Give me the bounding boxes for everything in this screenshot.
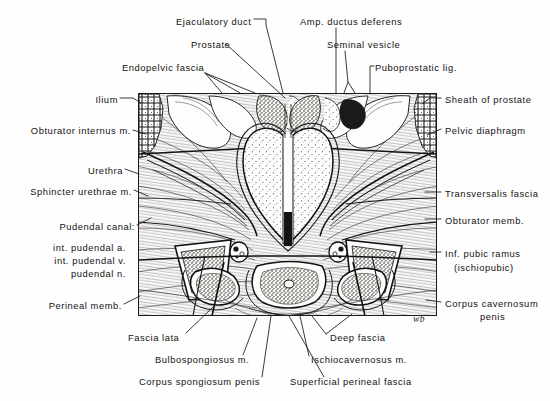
label-pudendal-n: pudendal n.	[0, 268, 126, 280]
label-ilium: Ilium	[0, 94, 118, 106]
leader-ejaculatory-duct	[254, 19, 283, 93]
label-corpus-cavernosum-penis: penis	[480, 311, 505, 323]
leader-corpus-spongiosum-penis	[262, 316, 271, 377]
leader-endopelvic-fascia-c	[205, 73, 255, 93]
label-pudendal-canal: Pudendal canal:	[0, 221, 135, 233]
label-ischiopubic: (ischiopubic)	[454, 262, 514, 274]
leader-puboprostatic-lig	[370, 66, 374, 93]
leader-superficial-perineal-fascia	[289, 316, 324, 377]
label-int-pudendal-v: int. pudendal v.	[0, 255, 126, 267]
label-seminal-vesicle: Seminal vesicle	[327, 39, 400, 51]
label-sphincter-urethrae-m: Sphincter urethrae m.	[0, 186, 132, 198]
label-ischiocavernosus-m: Ischiocavernosus m.	[311, 354, 407, 366]
label-obturator-memb: Obturator memb.	[445, 215, 524, 227]
label-deep-fascia: Deep fascia	[330, 332, 386, 344]
leader-seminal-vesicle-b	[348, 82, 355, 93]
label-endopelvic-fascia: Endopelvic fascia	[122, 62, 204, 74]
leader-urethra	[125, 169, 139, 174]
label-transversalis-fascia: Transversalis fascia	[445, 188, 539, 200]
label-perineal-memb: Perineal memb.	[0, 300, 122, 312]
artist-signature: wb	[413, 314, 425, 324]
leader-deep-fascia-b	[326, 314, 352, 334]
label-amp-ductus-deferens: Amp. ductus deferens	[300, 16, 402, 28]
label-corpus-cavernosum: Corpus cavernosum	[445, 298, 538, 310]
anatomical-illustration-plate	[138, 93, 437, 316]
label-obturator-internus-m: Obturator internus m.	[0, 125, 131, 137]
figure-page: Ejaculatory duct Amp. ductus deferens Pr…	[0, 0, 550, 401]
pelvis-coronal-section-drawing	[139, 94, 437, 316]
label-sheath-of-prostate: Sheath of prostate	[445, 94, 532, 106]
pudendal-canal-left	[230, 242, 248, 262]
leader-prostate	[226, 44, 285, 98]
label-corpus-spongiosum-penis: Corpus spongiosum penis	[139, 376, 260, 388]
label-prostate: Prostate	[191, 39, 230, 51]
leader-deep-fascia-a	[312, 316, 326, 334]
leader-endopelvic-fascia-a	[205, 73, 222, 93]
label-puboprostatic-lig: Puboprostatic lig.	[375, 62, 457, 74]
label-pelvic-diaphragm: Pelvic diaphragm	[445, 125, 526, 137]
corpus-spongiosum-bulb	[252, 262, 326, 309]
leader-bulbospongiosus-m	[243, 318, 257, 355]
label-urethra: Urethra	[0, 165, 123, 177]
label-superficial-perineal-fascia: Superficial perineal fascia	[290, 376, 412, 388]
label-ejaculatory-duct: Ejaculatory duct	[176, 16, 252, 28]
label-bulbospongiosus-m: Bulbospongiosus m.	[155, 354, 249, 366]
label-fascia-lata: Fascia lata	[128, 332, 179, 344]
leader-endopelvic-fascia-b	[205, 73, 240, 93]
pudendal-canal-right	[329, 242, 347, 262]
label-inf-pubic-ramus: Inf. pubic ramus	[445, 248, 521, 260]
label-int-pudendal-a: int. pudendal a.	[0, 242, 126, 254]
leader-seminal-vesicle-a	[344, 51, 348, 93]
leader-ischiocavernosus-m	[300, 316, 309, 356]
